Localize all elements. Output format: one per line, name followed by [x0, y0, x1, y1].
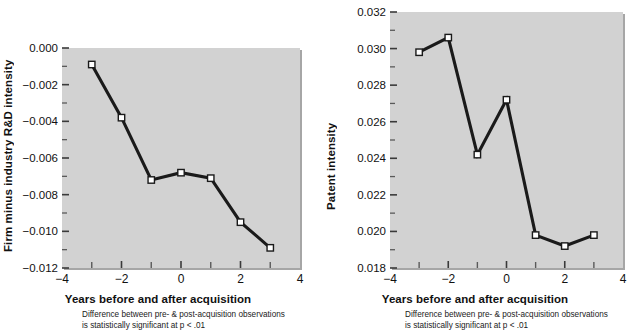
- x-tick-label: −4: [55, 272, 69, 286]
- x-tick-label: −4: [383, 272, 397, 286]
- data-point-marker: [532, 232, 538, 238]
- y-tick-label: 0.018: [357, 262, 386, 274]
- data-point-marker: [503, 97, 509, 103]
- y-axis-label-left: Firm minus industry R&D intensity: [2, 36, 14, 276]
- y-tick-label: 0.026: [357, 116, 386, 128]
- x-tick-label: −2: [441, 272, 455, 286]
- y-axis-label-right: Patent intensity: [325, 96, 337, 236]
- data-point-marker: [89, 61, 95, 67]
- panel-rd-intensity: Firm minus industry R&D intensity 0.000−…: [0, 0, 316, 335]
- chart-note-line2-left: is statistically significant at p < .01: [82, 320, 205, 331]
- data-point-marker: [591, 232, 597, 238]
- y-tick-label: −0.008: [23, 189, 59, 201]
- y-tick-label: 0.032: [357, 6, 386, 18]
- y-tick-label: 0.028: [357, 79, 386, 91]
- y-tick-label: −0.002: [23, 79, 59, 91]
- x-tick-label: 4: [297, 272, 304, 286]
- x-tick-label: 0: [178, 272, 185, 286]
- chart-note-line1-left: Difference between pre- & post-acquisiti…: [82, 309, 285, 320]
- y-tick-label: −0.010: [23, 225, 59, 237]
- x-axis-label-right: Years before and after acquisition: [317, 293, 633, 305]
- data-point-marker: [267, 245, 273, 251]
- y-tick-label: −0.004: [23, 115, 59, 127]
- y-tick-label: −0.006: [23, 152, 59, 164]
- y-tick-label: 0.024: [357, 152, 386, 164]
- line-series-right: [390, 12, 623, 268]
- line-series-left: [62, 48, 300, 268]
- x-tick-label: −2: [115, 272, 129, 286]
- data-point-marker: [445, 34, 451, 40]
- x-tick-label: 4: [620, 272, 627, 286]
- data-point-marker: [237, 219, 243, 225]
- data-point-marker: [474, 151, 480, 157]
- panel-patent-intensity: Patent intensity 0.0320.0300.0280.0260.0…: [317, 0, 633, 335]
- data-point-marker: [148, 177, 154, 183]
- plot-area-right: [390, 12, 623, 268]
- data-point-marker: [118, 114, 124, 120]
- y-tick-label: 0.000: [29, 42, 58, 54]
- chart-note-line1-right: Difference between pre- & post-acquisiti…: [405, 309, 608, 320]
- chart-note-line2-right: is statistically significant at p < .01: [405, 320, 528, 331]
- x-tick-label: 2: [561, 272, 568, 286]
- plot-area-left: [62, 48, 300, 268]
- data-point-marker: [416, 49, 422, 55]
- x-tick-label: 0: [503, 272, 510, 286]
- data-point-marker: [208, 175, 214, 181]
- y-tick-label: 0.020: [357, 225, 386, 237]
- x-tick-label: 2: [237, 272, 244, 286]
- y-tick-label: 0.022: [357, 189, 386, 201]
- y-tick-label: −0.012: [23, 262, 59, 274]
- two-panel-line-chart-figure: Firm minus industry R&D intensity 0.000−…: [0, 0, 633, 335]
- y-tick-label: 0.030: [357, 43, 386, 55]
- x-axis-label-left: Years before and after acquisition: [0, 293, 316, 305]
- data-point-marker: [178, 169, 184, 175]
- data-point-marker: [562, 243, 568, 249]
